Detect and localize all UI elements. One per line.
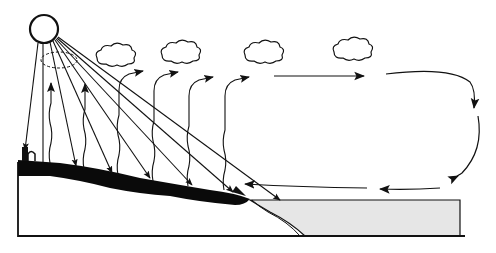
building-icon [22, 147, 35, 161]
sun-ray [25, 43, 38, 150]
evaporation-arrow [117, 71, 143, 175]
clouds [96, 37, 373, 66]
cloud-icon [244, 40, 284, 63]
evaporation-arrow [223, 77, 249, 190]
lower-wind-arrows [245, 184, 440, 189]
cloud-icon [96, 43, 136, 66]
cloud-icon [161, 40, 201, 63]
cloud-icon [333, 37, 373, 60]
water-cycle-diagram [0, 0, 496, 253]
evaporation-arrow [83, 84, 86, 169]
evaporation-arrow [49, 83, 52, 163]
upper-wind-arrows [274, 71, 479, 176]
sun-icon [30, 15, 58, 43]
land-surface [18, 160, 250, 205]
sea [250, 200, 460, 236]
wind-arrow [386, 71, 475, 108]
sun-ray [50, 42, 76, 166]
evaporation-arrow [152, 72, 178, 181]
wind-arrow [380, 188, 440, 189]
evaporation-arrow [187, 77, 213, 186]
circulation-line [457, 116, 480, 177]
